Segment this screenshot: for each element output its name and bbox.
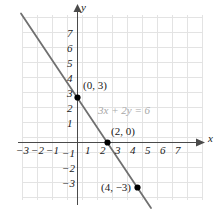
point-marker-4-neg3 (134, 184, 140, 190)
x-tick-label-3: 3 (115, 145, 121, 156)
y-tick-label-7: 7 (67, 28, 73, 39)
y-tick-label-neg2: −2 (62, 163, 75, 174)
y-axis-label: y (81, 2, 86, 13)
x-tick-label-1: 1 (85, 145, 91, 156)
point-marker-0-3 (74, 94, 80, 100)
point-label-y-intercept: (0, 3) (83, 80, 107, 91)
point-label-third-point: (4, −3) (101, 182, 131, 193)
x-tick-label-5: 5 (145, 145, 151, 156)
y-tick-label-5: 5 (67, 58, 73, 69)
y-tick-label-3: 3 (67, 88, 73, 99)
coordinate-plane-graph: x y −3 −2 −1 1 2 3 4 5 6 7 7 6 5 4 3 2 1… (0, 0, 221, 215)
x-tick-label-7: 7 (175, 145, 181, 156)
equation-annotation: 3x + 2y = 6 (98, 105, 150, 116)
x-axis-label: x (208, 133, 213, 144)
y-tick-label-neg1: −1 (62, 148, 75, 159)
x-axis-arrow-icon (196, 139, 205, 147)
y-tick-label-1: 1 (67, 118, 73, 129)
y-tick-label-6: 6 (67, 43, 73, 54)
y-tick-label-4: 4 (67, 73, 73, 84)
x-tick-label-6: 6 (160, 145, 166, 156)
x-tick-label-4: 4 (130, 145, 136, 156)
x-tick-label-neg3: −3 (16, 145, 29, 156)
y-tick-label-2: 2 (67, 103, 73, 114)
axis-arrowheads (74, 4, 206, 147)
x-tick-label-neg2: −2 (31, 145, 44, 156)
point-label-x-intercept: (2, 0) (111, 126, 135, 137)
y-tick-label-neg3: −3 (62, 178, 75, 189)
x-tick-label-neg1: −1 (46, 145, 59, 156)
x-tick-label-2: 2 (100, 145, 106, 156)
